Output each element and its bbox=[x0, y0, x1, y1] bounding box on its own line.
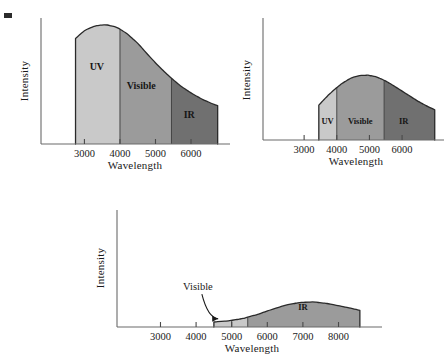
x-axis-tick-label: 3000 bbox=[294, 144, 315, 155]
y-axis-title: Intensity bbox=[94, 248, 106, 289]
x-axis-tick-label: 4000 bbox=[109, 148, 130, 159]
chart-panel-medium-star: 3000400050006000 UVVisibleIR Wavelength … bbox=[238, 10, 447, 182]
x-axis-tick-label: 5000 bbox=[221, 331, 242, 342]
chart-panel-hot-star: 3000400050006000 UVVisibleIR Wavelength … bbox=[8, 4, 238, 184]
x-axis-tick-label: 5000 bbox=[359, 144, 380, 155]
plot-area-2: 3000400050006000 UVVisibleIR Wavelength … bbox=[240, 18, 444, 167]
annotation-arrowhead bbox=[212, 316, 218, 322]
x-axis-tick-label: 4000 bbox=[326, 144, 347, 155]
x-axis-title: Wavelength bbox=[329, 155, 384, 167]
x-axis-tick-label: 4000 bbox=[186, 331, 207, 342]
band-area-visible bbox=[337, 75, 384, 140]
x-axis-tick-label: 3000 bbox=[74, 148, 95, 159]
band-label-ir: IR bbox=[298, 302, 308, 312]
x-axis-tick-label: 8000 bbox=[328, 331, 349, 342]
x-axis-tick-label: 6000 bbox=[181, 148, 202, 159]
x-axis-title: Wavelength bbox=[108, 159, 163, 171]
band-label-visible: Visible bbox=[348, 116, 373, 126]
x-axis-tick-labels: 3000400050006000 bbox=[294, 144, 413, 155]
x-axis-tick-label: 6000 bbox=[392, 144, 413, 155]
y-axis-title: Intensity bbox=[18, 61, 30, 102]
x-axis-tick-labels: 3000400050006000 bbox=[74, 148, 202, 159]
plot-area-3: 300040005000600070008000 IR Visible Wave… bbox=[94, 210, 382, 354]
x-axis-tick-label: 6000 bbox=[257, 331, 278, 342]
x-axis-tick-label: 7000 bbox=[292, 331, 313, 342]
band-label-ir: IR bbox=[184, 109, 196, 120]
chart-panel-cool-star: 300040005000600070008000 IR Visible Wave… bbox=[92, 200, 392, 363]
band-labels: IR bbox=[298, 302, 308, 312]
x-axis-title: Wavelength bbox=[225, 342, 280, 354]
x-axis-tick-label: 5000 bbox=[145, 148, 166, 159]
annotation-label-visible: Visible bbox=[183, 281, 213, 292]
band-label-uv: UV bbox=[321, 116, 334, 126]
band-label-uv: UV bbox=[90, 61, 105, 72]
x-axis-tick-labels: 300040005000600070008000 bbox=[150, 331, 349, 342]
visible-annotation: Visible bbox=[183, 281, 218, 322]
figure-page: 3000400050006000 UVVisibleIR Wavelength … bbox=[0, 0, 447, 363]
y-axis-title: Intensity bbox=[240, 60, 252, 101]
band-area-ir bbox=[384, 80, 435, 140]
annotation-arrow bbox=[202, 294, 218, 319]
band-area-uv bbox=[76, 25, 120, 144]
x-axis-tick-label: 3000 bbox=[150, 331, 171, 342]
band-label-visible: Visible bbox=[127, 80, 157, 91]
plot-area-1: 3000400050006000 UVVisibleIR Wavelength … bbox=[18, 18, 230, 171]
band-label-ir: IR bbox=[399, 116, 409, 126]
